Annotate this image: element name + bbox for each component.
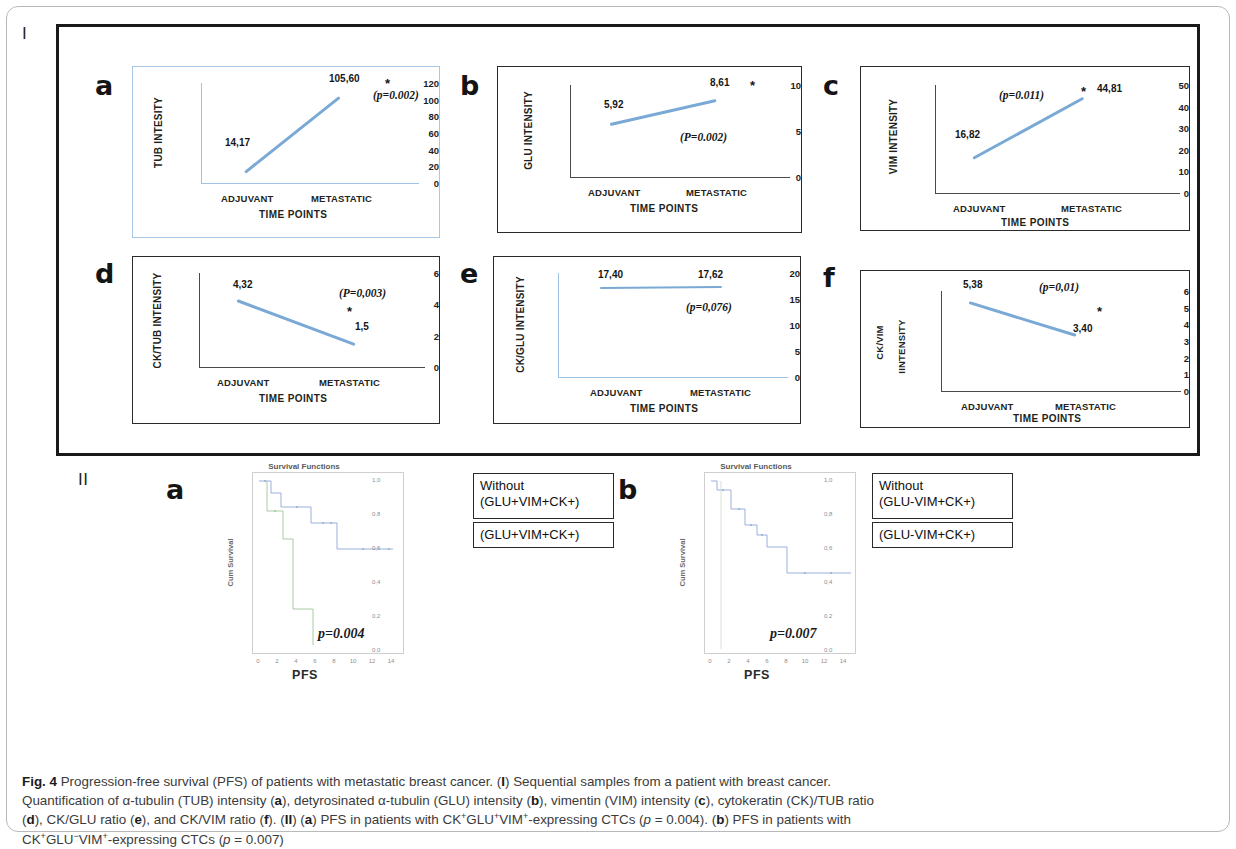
panel-c-ytick: 50 — [1119, 80, 1189, 91]
panel-c-value-label-left: 16,82 — [955, 129, 980, 140]
panel-f-data-line — [969, 301, 1077, 337]
panel-d-y-axis — [199, 273, 200, 367]
panel-II-b-y-label: Cum Survival — [678, 533, 687, 593]
panel-a-x-title: TIME POINTS — [259, 209, 327, 220]
panel-a-ytick: 60 — [375, 128, 439, 139]
legend-II-a-without: Without (GLU+VIM+CK+) — [473, 473, 614, 519]
panel-b-letter: b — [460, 72, 479, 99]
panel-a-xcat-right: METASTATIC — [311, 193, 372, 204]
panel-a-ytick: 20 — [375, 161, 439, 172]
caption-ref-d: d — [26, 813, 34, 828]
panel-e-x-title: TIME POINTS — [630, 403, 698, 414]
panel-a-chart: 120 100 80 60 40 20 0 TUB INTESITY 14,17… — [132, 66, 440, 238]
panel-e-letter: e — [460, 260, 478, 287]
figure-caption: Fig. 4 Progression-free survival (PFS) o… — [22, 772, 1212, 849]
panel-f-ytick: 4 — [1113, 319, 1189, 330]
panel-II-b-xtick: 8 — [784, 658, 787, 664]
panel-d-ytick: 6 — [377, 268, 439, 279]
panel-f-value-label-left: 5,38 — [963, 279, 982, 290]
panel-c-y-label: VIM INTENSITY — [888, 93, 899, 181]
panel-II-b-ytick: 0,2 — [824, 613, 912, 619]
panel-II-a-xtick: 14 — [388, 658, 395, 664]
panel-II-b-ytick: 0,4 — [824, 579, 912, 585]
legend-II-b-positive: (GLU-VIM+CK+) — [872, 522, 1013, 548]
caption-text-3g: GLU — [466, 813, 494, 828]
panel-f-letter: f — [823, 264, 835, 291]
panel-c: c 50 40 30 20 10 0 VIM INTENSITY 16,82 4… — [818, 66, 1198, 246]
panel-b-ytick: 5 — [733, 126, 801, 137]
panel-f-pvalue: (p=0,01) — [1039, 281, 1079, 293]
panel-e-ytick: 15 — [740, 294, 800, 305]
panel-II-b-xtick: 6 — [765, 658, 768, 664]
panel-II-b-xtick: 14 — [840, 658, 847, 664]
section-one-label: I — [22, 24, 27, 44]
panel-II-a-ytick: 0,0 — [372, 647, 460, 653]
panel-II-b-letter: b — [618, 476, 637, 503]
caption-text-3e: ) ( — [292, 813, 305, 828]
panel-c-letter: c — [823, 72, 839, 99]
panel-b-value-label-right: 8,61 — [710, 77, 729, 88]
panel-c-ytick: 40 — [1119, 101, 1189, 112]
panel-d-ytick: 2 — [377, 330, 439, 341]
panel-a: a 120 100 80 60 40 20 0 TUB INTESITY 14,… — [90, 66, 440, 246]
panel-e-ytick: 5 — [740, 346, 800, 357]
panel-b-chart: 10 5 0 GLU INTENSITY 5,92 8,61 * (P=0.00… — [497, 66, 802, 233]
panel-II-b-xtick: 4 — [746, 658, 749, 664]
panel-II-b-xtick: 12 — [821, 658, 828, 664]
panel-f-x-title: TIME POINTS — [1013, 413, 1081, 424]
panel-c-ytick: 10 — [1119, 166, 1189, 177]
caption-ref-a: a — [275, 793, 282, 808]
legend-II-b-without: Without (GLU-VIM+CK+) — [872, 473, 1013, 519]
caption-text-2a: Quantification of α-tubulin (TUB) intens… — [22, 793, 275, 808]
panel-d-value-label-right: 1,5 — [355, 321, 369, 332]
caption-text-2d: ), cytokeratin (CK)/TUB ratio — [706, 793, 874, 808]
panel-f-ytick: 2 — [1113, 352, 1189, 363]
panel-c-x-title: TIME POINTS — [1001, 217, 1069, 228]
caption-text-3k: ) PFS in patients with — [724, 813, 851, 828]
panel-b: b 10 5 0 GLU INTENSITY 5,92 8,61 * (P=0.… — [455, 66, 805, 246]
panel-II-a-title: Survival Functions — [204, 462, 404, 471]
panel-II-a-x-label: PFS — [190, 668, 420, 682]
legend-II-a-positive-label: (GLU+VIM+CK+) — [480, 527, 608, 543]
panel-II-a-ytick: 0,4 — [372, 579, 460, 585]
panel-e-y-label: CK/GLU INTENSITY — [515, 275, 526, 375]
caption-line-1: Fig. 4 Progression-free survival (PFS) o… — [22, 772, 1212, 791]
section-two-label: II — [78, 470, 88, 490]
panel-d-chart: 6 4 2 0 CK/TUB INTENSITY 4,32 1,5 * (P=0… — [132, 256, 440, 424]
panel-e-ytick: 10 — [740, 320, 800, 331]
caption-ref-c: c — [698, 793, 705, 808]
panel-II-b-ytick: 0,0 — [824, 647, 912, 653]
panel-c-chart: 50 40 30 20 10 0 VIM INTENSITY 16,82 44,… — [860, 66, 1190, 231]
panel-a-data-line — [244, 96, 341, 174]
panel-f-xcat-left: ADJUVANT — [961, 401, 1014, 412]
panel-c-ytick: 0 — [1119, 188, 1189, 199]
panel-II-a-xtick: 0 — [256, 658, 259, 664]
panel-d-xcat-right: METASTATIC — [319, 377, 380, 388]
legend-II-b-without-line1: Without — [879, 478, 1007, 494]
panel-II-a-xtick: 4 — [294, 658, 297, 664]
legend-II-a-without-line2: (GLU+VIM+CK+) — [480, 494, 608, 510]
panel-d-ytick: 0 — [377, 362, 439, 373]
panel-f-ytick: 6 — [1113, 286, 1189, 297]
caption-text-3f: ) PFS in patients with CK — [312, 813, 461, 828]
legend-II-b-positive-label: (GLU-VIM+CK+) — [879, 527, 1007, 543]
panel-a-ytick: 80 — [375, 111, 439, 122]
caption-text-4b: GLU — [46, 832, 74, 847]
panel-II-b-title: Survival Functions — [656, 462, 856, 471]
panel-c-xcat-right: METASTATIC — [1061, 203, 1122, 214]
panel-f-ytick: 1 — [1113, 369, 1189, 380]
panel-II-a: a Survival Functions 1,0 0,8 0,6 0,4 0,2… — [160, 462, 460, 682]
panel-e: e 20 15 10 5 0 CK/GLU INTENSITY 17,40 17… — [455, 256, 805, 436]
panel-a-pvalue: (p=0.002) — [373, 89, 419, 101]
panel-II-a-letter: a — [166, 476, 184, 503]
panel-f-value-label-right: 3,40 — [1073, 323, 1092, 334]
panel-f-ytick: 0 — [1113, 386, 1189, 397]
panel-b-ytick: 10 — [733, 80, 801, 91]
panel-d-y-label: CK/TUB INTENSITY — [152, 273, 163, 369]
panel-c-ytick: 20 — [1119, 144, 1189, 155]
panel-II-a-ytick: 0,6 — [372, 545, 460, 551]
panel-e-ytick: 0 — [740, 372, 800, 383]
panel-c-significance-asterisk: * — [1081, 85, 1086, 98]
panel-d-significance-asterisk: * — [347, 305, 352, 318]
panel-c-data-line — [972, 96, 1084, 159]
